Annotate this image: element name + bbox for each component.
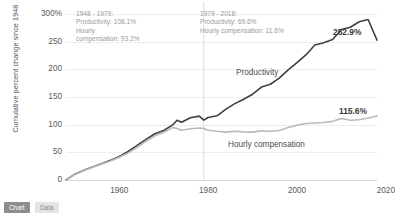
gridline [66,180,377,181]
annotation-period-1948-1979: 1948 - 1979: Productivity: 108.1% Hourly… [76,10,186,44]
view-toggle-bar: Chart Data [0,199,383,224]
series-label-productivity: Productivity [236,68,278,77]
x-axis-tick-label: 2000 [288,186,306,195]
tab-chart[interactable]: Chart [4,202,30,213]
y-axis-tick-label: 300% [18,10,62,18]
x-axis-tick-label: 1980 [199,186,217,195]
x-axis-tick-label: 2020 [377,186,395,195]
end-value-hourly-compensation: 115.6% [339,106,367,116]
chart-container: Cumulative percent change since 1948 050… [0,0,383,196]
y-axis-tick-label: 0 [18,176,62,184]
end-value-productivity: 252.9% [333,27,361,37]
x-axis-tick-label: 1960 [110,186,128,195]
y-axis-tick-label: 50 [18,148,62,156]
y-axis-tick-label: 200 [18,65,62,73]
series-line-hourly-compensation [66,116,377,180]
y-axis-tick-label: 250 [18,38,62,46]
tab-data[interactable]: Data [35,202,59,213]
series-label-hourly-compensation: Hourly compensation [228,140,305,149]
y-axis-ticks: 050100150200250300% [0,0,62,196]
annotation-period-1979-2018: 1979 - 2018: Productivity: 69.6% Hourly … [200,10,330,35]
y-axis-tick-label: 100 [18,121,62,129]
y-axis-tick-label: 150 [18,93,62,101]
